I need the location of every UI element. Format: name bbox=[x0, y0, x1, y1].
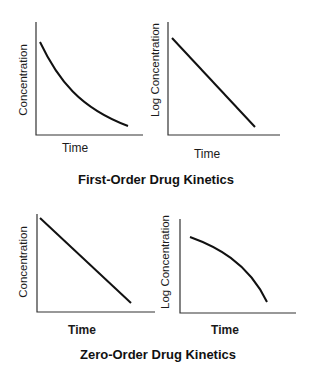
y-axis bbox=[36, 22, 143, 135]
concave-down-decline-curve bbox=[190, 237, 267, 302]
y-axis-label: Concentration bbox=[17, 44, 29, 116]
exponential-decay-curve bbox=[40, 42, 128, 126]
drug-kinetics-figure: Concentration Time Log Concentration Tim… bbox=[0, 0, 313, 376]
panel-first-order-log-concentration: Log Concentration Time bbox=[149, 22, 280, 161]
title-first-order: First-Order Drug Kinetics bbox=[78, 172, 234, 187]
x-axis-label: Time bbox=[68, 323, 96, 337]
linear-decline-line bbox=[172, 38, 255, 127]
y-axis bbox=[37, 214, 155, 312]
panel-first-order-concentration: Concentration Time bbox=[17, 22, 143, 155]
x-axis-label: Time bbox=[194, 147, 221, 161]
panel-zero-order-concentration: Concentration Time bbox=[17, 214, 155, 337]
panel-zero-order-log-concentration: Log Concentration Time bbox=[159, 215, 296, 337]
y-axis bbox=[168, 22, 280, 135]
x-axis-label: Time bbox=[62, 141, 89, 155]
linear-decline-line bbox=[40, 218, 131, 303]
y-axis-label: Log Concentration bbox=[149, 23, 161, 117]
x-axis-label: Time bbox=[211, 323, 239, 337]
y-axis-label: Log Concentration bbox=[159, 215, 171, 309]
y-axis bbox=[180, 219, 296, 313]
title-zero-order: Zero-Order Drug Kinetics bbox=[80, 347, 236, 362]
y-axis-label: Concentration bbox=[17, 226, 29, 298]
